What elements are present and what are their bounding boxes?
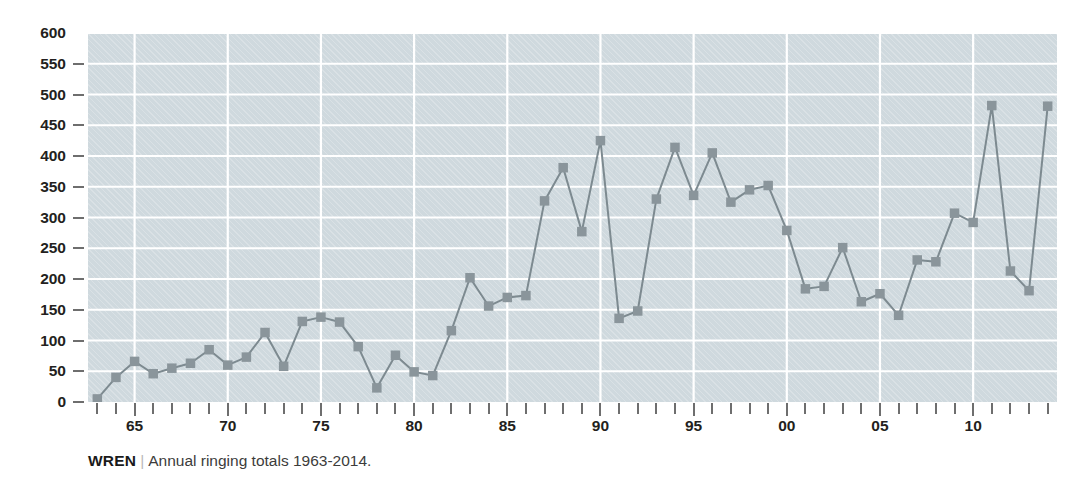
- x-axis-tick-mark: [898, 403, 900, 414]
- data-point-marker: [111, 373, 121, 383]
- y-axis-tick-mark: [73, 186, 84, 188]
- y-axis-tick-mark: [73, 309, 84, 311]
- data-point-marker: [148, 369, 158, 379]
- data-point-marker: [633, 306, 643, 316]
- x-axis-tick-mark: [916, 403, 918, 414]
- series-polyline: [97, 106, 1047, 399]
- data-point-marker: [409, 367, 419, 377]
- data-point-marker: [931, 257, 941, 267]
- x-axis-tick-mark: [339, 403, 341, 414]
- y-axis-tick-mark: [73, 63, 84, 65]
- x-axis-tick-mark: [655, 403, 657, 414]
- data-point-marker: [167, 363, 177, 373]
- x-axis-tick-mark: [1028, 403, 1030, 414]
- x-axis-tick-label: 90: [592, 418, 609, 434]
- y-axis-tick-label: 100: [40, 333, 66, 349]
- data-point-marker: [521, 291, 531, 301]
- x-axis-tick-mark: [506, 403, 508, 416]
- x-axis-tick-mark: [115, 403, 117, 414]
- data-point-marker: [614, 314, 624, 324]
- x-axis-tick-mark: [730, 403, 732, 414]
- x-axis-tick-mark: [301, 403, 303, 414]
- x-axis-tick-mark: [711, 403, 713, 414]
- x-axis-tick-mark: [674, 403, 676, 414]
- x-axis-tick-mark: [860, 403, 862, 414]
- data-point-marker: [950, 208, 960, 218]
- x-axis-tick-label: 70: [219, 418, 236, 434]
- data-point-marker: [353, 342, 363, 352]
- data-point-marker: [838, 243, 848, 253]
- y-axis-tick-mark: [73, 370, 84, 372]
- data-point-marker: [819, 282, 829, 292]
- x-axis-tick-mark: [152, 403, 154, 414]
- x-axis-tick-mark: [562, 403, 564, 414]
- x-axis-tick-mark: [320, 403, 322, 416]
- data-point-marker: [260, 328, 270, 338]
- x-axis-tick-mark: [544, 403, 546, 414]
- data-point-marker: [857, 297, 867, 307]
- x-axis-tick-label: 80: [405, 418, 422, 434]
- x-axis-tick-mark: [618, 403, 620, 414]
- data-point-marker: [242, 352, 252, 362]
- x-axis-tick-mark: [767, 403, 769, 414]
- data-point-marker: [558, 163, 568, 173]
- data-point-marker: [391, 351, 401, 361]
- y-axis-tick-label: 250: [40, 241, 66, 257]
- x-axis-tick-mark: [96, 403, 98, 414]
- data-point-marker: [689, 191, 699, 201]
- y-axis-tick-label: 350: [40, 179, 66, 195]
- x-axis-tick-mark: [469, 403, 471, 414]
- caption-description: Annual ringing totals 1963-2014.: [148, 452, 371, 469]
- data-point-marker: [894, 311, 904, 321]
- data-point-marker: [428, 371, 438, 381]
- y-axis-tick-mark: [73, 124, 84, 126]
- x-axis-tick-mark: [842, 403, 844, 414]
- data-point-marker: [596, 136, 606, 146]
- x-axis-tick-label: 75: [312, 418, 329, 434]
- data-point-marker: [204, 345, 214, 355]
- x-axis-tick-mark: [599, 403, 601, 416]
- x-axis-tick-mark: [879, 403, 881, 416]
- data-point-marker: [279, 362, 289, 372]
- x-axis-tick-mark: [954, 403, 956, 414]
- x-axis: 65707580859095000510: [0, 402, 1092, 447]
- data-point-marker: [1043, 101, 1053, 111]
- caption-species: WREN: [88, 452, 136, 469]
- x-axis-tick-mark: [991, 403, 993, 414]
- x-axis-tick-label: 65: [126, 418, 143, 434]
- y-axis-tick-label: 300: [40, 210, 66, 226]
- x-axis-tick-mark: [283, 403, 285, 414]
- x-axis-tick-label: 00: [778, 418, 795, 434]
- data-point-marker: [763, 181, 773, 191]
- data-point-marker: [298, 317, 308, 327]
- x-axis-tick-mark: [749, 403, 751, 414]
- data-point-marker: [372, 383, 382, 393]
- data-point-marker: [503, 293, 513, 303]
- y-axis-tick-label: 50: [49, 364, 66, 380]
- data-point-marker: [782, 226, 792, 236]
- data-point-marker: [93, 394, 103, 402]
- y-axis-tick-mark: [73, 278, 84, 280]
- data-point-marker: [652, 194, 662, 204]
- data-point-marker: [335, 317, 345, 327]
- x-axis-tick-mark: [189, 403, 191, 414]
- data-point-marker: [670, 143, 680, 153]
- x-axis-tick-mark: [264, 403, 266, 414]
- data-point-marker: [316, 312, 326, 322]
- data-point-marker: [801, 284, 811, 294]
- x-axis-tick-mark: [935, 403, 937, 414]
- y-axis-tick-mark: [73, 217, 84, 219]
- y-axis-tick-mark: [73, 94, 84, 96]
- y-axis-tick-label: 600: [40, 25, 66, 41]
- y-axis-tick-mark: [73, 340, 84, 342]
- y-axis-tick-label: 450: [40, 118, 66, 134]
- x-axis-tick-mark: [171, 403, 173, 414]
- x-axis-tick-label: 85: [499, 418, 516, 434]
- x-axis-tick-mark: [432, 403, 434, 414]
- data-point-marker: [130, 357, 140, 367]
- x-axis-tick-mark: [581, 403, 583, 414]
- x-axis-tick-mark: [1009, 403, 1011, 414]
- data-point-marker: [540, 196, 550, 206]
- data-point-marker: [1024, 286, 1034, 296]
- data-point-marker: [447, 326, 457, 336]
